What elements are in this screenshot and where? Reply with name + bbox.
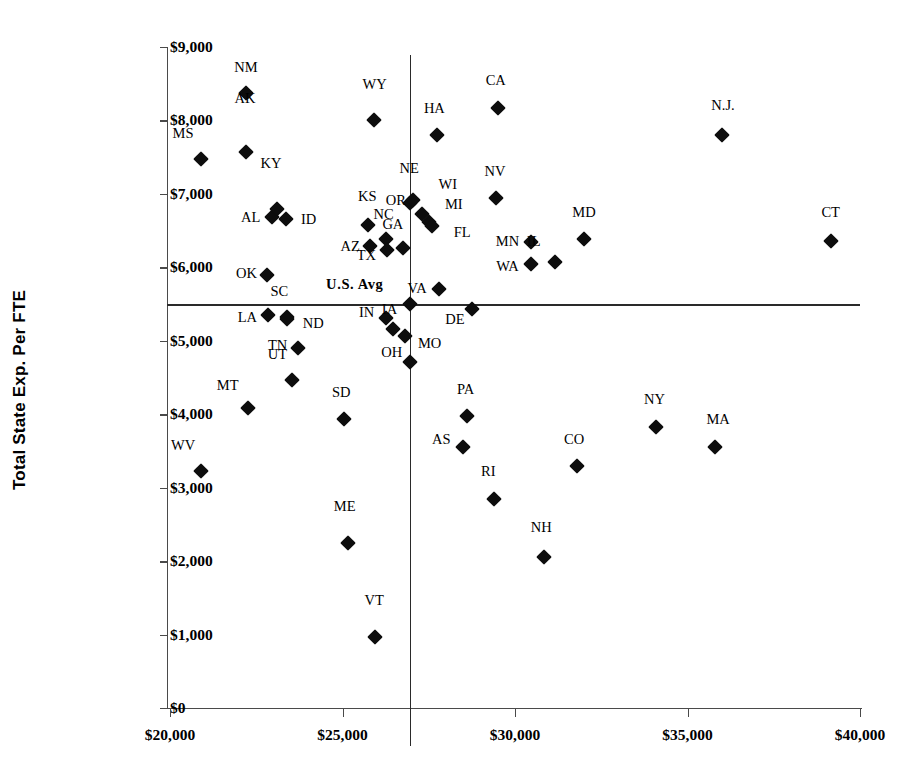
data-point-label-tn: TN	[268, 337, 287, 354]
data-point-label-ny: NY	[644, 390, 665, 407]
data-point-vt[interactable]	[367, 630, 383, 646]
y-tick	[160, 47, 168, 48]
data-point-label-nm: NM	[234, 59, 257, 76]
data-point-label-nv: NV	[485, 162, 506, 179]
data-point-il[interactable]	[547, 254, 563, 270]
data-point-label-ks: KS	[358, 187, 377, 204]
plot-area: $0$1,000$2,000$3,000$4,000$5,000$6,000$7…	[170, 47, 860, 708]
x-tick-label: $20,000	[145, 726, 195, 744]
data-point-label-de: DE	[445, 311, 464, 328]
data-point-label-fl: FL	[454, 224, 471, 241]
data-point-ma[interactable]	[707, 439, 723, 455]
data-point-label-la: LA	[238, 309, 257, 326]
data-point-tx[interactable]	[380, 243, 396, 259]
y-tick	[160, 635, 168, 636]
x-tick	[688, 708, 689, 717]
data-point-tn[interactable]	[290, 340, 306, 356]
data-point-nj[interactable]	[714, 127, 730, 143]
data-point-az[interactable]	[362, 238, 378, 254]
data-point-label-vt: VT	[365, 592, 384, 609]
data-point-usavg[interactable]	[402, 296, 418, 312]
data-point-label-wv: WV	[171, 436, 195, 453]
x-tick	[170, 708, 171, 717]
data-point-ny[interactable]	[649, 419, 665, 435]
data-point-ok[interactable]	[259, 268, 275, 284]
y-tick	[160, 120, 168, 121]
data-point-label-co: CO	[564, 431, 584, 448]
data-point-pa[interactable]	[459, 409, 475, 425]
data-point-label-ri: RI	[481, 462, 496, 479]
data-point-label-md: MD	[572, 204, 595, 221]
data-point-label-wi: WI	[439, 176, 458, 193]
data-point-label-sc: SC	[270, 282, 288, 299]
data-point-oh[interactable]	[402, 354, 418, 370]
y-tick	[160, 267, 168, 268]
us-average-label: U.S. Avg	[326, 276, 383, 293]
data-point-label-in: IN	[359, 304, 374, 321]
x-tick-label: $25,000	[317, 726, 367, 744]
data-point-wa[interactable]	[523, 257, 539, 273]
data-point-wv[interactable]	[193, 463, 209, 479]
x-tick-label: $40,000	[835, 726, 885, 744]
data-point-label-mt: MT	[217, 376, 239, 393]
x-tick	[860, 708, 861, 717]
data-point-ri[interactable]	[487, 491, 503, 507]
data-point-label-or: OR	[386, 191, 406, 208]
y-axis-title-text: Total State Exp. Per FTE	[10, 290, 30, 490]
data-point-label-mn: MN	[496, 233, 519, 250]
data-point-me[interactable]	[340, 536, 356, 552]
data-point-label-nh: NH	[531, 519, 552, 536]
y-tick	[160, 414, 168, 415]
data-point-label-ut: UT	[268, 345, 287, 362]
us-average-vertical-line	[410, 55, 412, 746]
data-point-ut[interactable]	[285, 372, 301, 388]
y-tick	[160, 194, 168, 195]
data-point-label-mi: MI	[445, 195, 463, 212]
data-point-label-id: ID	[301, 210, 316, 227]
data-point-label-as: AS	[432, 431, 451, 448]
data-point-nm[interactable]	[238, 85, 254, 101]
data-point-label-az: AZ	[340, 238, 359, 255]
data-point-label-nj: N.J.	[711, 97, 734, 114]
data-point-co[interactable]	[569, 459, 585, 475]
data-point-ca[interactable]	[490, 100, 506, 116]
x-tick	[343, 708, 344, 717]
data-point-sd[interactable]	[336, 412, 352, 428]
data-point-label-ct: CT	[821, 203, 840, 220]
data-point-label-ha: HA	[424, 100, 445, 117]
data-point-label-ca: CA	[486, 71, 506, 88]
data-point-mn[interactable]	[523, 235, 539, 251]
data-point-wy[interactable]	[366, 112, 382, 128]
data-point-ks[interactable]	[361, 217, 377, 233]
y-axis-title: Total State Exp. Per FTE	[0, 0, 40, 780]
data-point-label-sd: SD	[332, 384, 351, 401]
data-point-mt[interactable]	[240, 400, 256, 416]
data-point-ak[interactable]	[238, 144, 254, 160]
data-point-ct[interactable]	[823, 233, 839, 249]
x-tick	[515, 708, 516, 717]
data-point-label-nd: ND	[303, 315, 324, 332]
data-point-ga[interactable]	[395, 240, 411, 256]
data-point-label-wa: WA	[496, 258, 519, 275]
data-point-label-al: AL	[241, 208, 260, 225]
data-point-label-wy: WY	[362, 75, 386, 92]
data-point-la[interactable]	[261, 307, 277, 323]
y-axis-line	[167, 47, 168, 708]
data-point-label-ky: KY	[260, 154, 281, 171]
data-point-md[interactable]	[576, 232, 592, 248]
data-point-label-oh: OH	[381, 344, 402, 361]
data-point-label-ma: MA	[706, 410, 729, 427]
data-point-ms[interactable]	[193, 152, 209, 168]
x-tick-label: $30,000	[490, 726, 540, 744]
data-point-nh[interactable]	[537, 550, 553, 566]
y-tick	[160, 341, 168, 342]
data-point-ha[interactable]	[430, 127, 446, 143]
data-point-as[interactable]	[455, 439, 471, 455]
data-point-label-ok: OK	[236, 265, 257, 282]
data-point-label-nc: NC	[374, 206, 394, 223]
y-tick	[160, 561, 168, 562]
data-point-nv[interactable]	[488, 190, 504, 206]
y-tick	[160, 488, 168, 489]
data-point-va[interactable]	[431, 282, 447, 298]
scatter-chart: Total State Exp. Per FTE $0$1,000$2,000$…	[0, 0, 911, 780]
